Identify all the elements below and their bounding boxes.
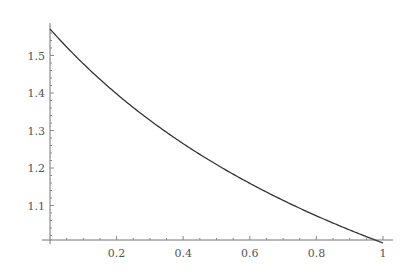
x-tick-label: 0.2 (108, 247, 126, 260)
y-axis: 1.11.21.31.41.5 (28, 23, 55, 244)
x-tick-label: 1 (380, 247, 387, 260)
y-tick-label: 1.1 (28, 200, 46, 213)
chart: 1.11.21.31.41.5 0.20.40.60.81 (0, 0, 413, 273)
curve-line (50, 29, 383, 243)
y-tick-label: 1.2 (28, 162, 46, 175)
x-axis: 0.20.40.60.81 (42, 236, 393, 260)
y-tick-label: 1.5 (28, 50, 46, 63)
x-tick-label: 0.6 (241, 247, 259, 260)
y-tick-label: 1.3 (28, 125, 46, 138)
y-tick-label: 1.4 (28, 87, 46, 100)
x-tick-label: 0.4 (174, 247, 192, 260)
x-tick-label: 0.8 (308, 247, 326, 260)
